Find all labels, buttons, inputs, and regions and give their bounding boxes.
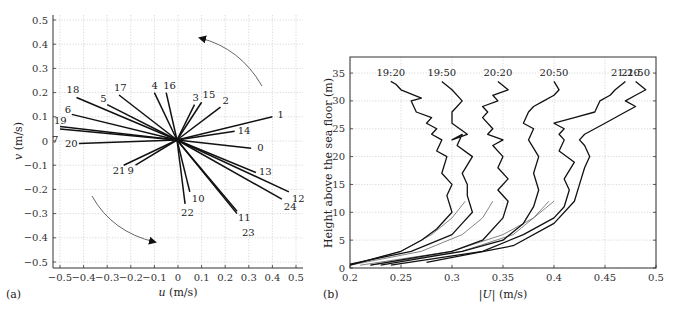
- x-tick-label: −0.4: [71, 272, 95, 283]
- vector-line: [124, 140, 177, 165]
- profile-time-label: 20:50: [540, 67, 569, 78]
- profile-time-label: 19:50: [427, 67, 456, 78]
- vector-label: 20: [65, 138, 78, 149]
- profile-line: [427, 81, 646, 262]
- vector-line: [136, 140, 177, 165]
- x-tick-label: −0.5: [48, 272, 72, 283]
- vector-label: 9: [128, 165, 134, 176]
- vector-label: 1: [277, 109, 283, 120]
- x-tick-label: −0.2: [119, 272, 143, 283]
- vector-label: 21: [113, 165, 126, 176]
- vector-label: 3: [193, 92, 199, 103]
- x-tick-label-b: 0.5: [648, 272, 664, 283]
- vector-label: 11: [238, 212, 251, 223]
- vector-line: [79, 140, 177, 143]
- x-axis-title: u (m/s): [159, 286, 198, 299]
- x-axis-title-b: |U| (m/s): [479, 288, 528, 302]
- profile-line: [381, 81, 559, 265]
- y-tick-label: 0.2: [32, 87, 48, 98]
- profile-time-label: 19:20: [376, 67, 405, 78]
- x-tick-label-b: 0.3: [444, 272, 460, 283]
- vector-label: 18: [67, 84, 80, 95]
- vector-label: 13: [259, 166, 272, 177]
- x-tick-label-b: 0.25: [390, 272, 412, 283]
- profile-line: [350, 81, 452, 265]
- vector-label: 7: [52, 134, 58, 145]
- panel-label-a: (a): [6, 288, 21, 301]
- x-tick-label: 0.5: [288, 272, 304, 283]
- vector-label: 14: [238, 125, 251, 136]
- vector-label: 17: [114, 82, 127, 93]
- x-tick-label: 0.3: [241, 272, 257, 283]
- profile-grid: [350, 57, 656, 268]
- y-tick-label: 0: [42, 136, 48, 147]
- vector-label: 10: [192, 193, 205, 204]
- profile-time-label: 20:20: [483, 67, 512, 78]
- x-tick-label: −0.1: [142, 272, 166, 283]
- vector-label: 6: [65, 104, 71, 115]
- y-tick-label-b: 5: [339, 235, 345, 246]
- y-axis-title-b: Height above the sea floor (m): [322, 78, 335, 248]
- y-axis-title: v (m/s): [12, 122, 25, 160]
- profile-time-label: 21:50: [621, 67, 650, 78]
- y-tick-label-b: 35: [332, 68, 345, 79]
- y-tick-label-b: 0: [339, 263, 345, 274]
- x-tick-label: −0.3: [95, 272, 119, 283]
- vector-label: 2: [222, 95, 228, 106]
- vector-label: 24: [284, 201, 297, 212]
- profile-line: [370, 81, 508, 265]
- x-tick-label: 0.4: [264, 272, 280, 283]
- cw-rotation-arrow-icon: [92, 196, 155, 242]
- vector-label: 15: [203, 89, 216, 100]
- y-tick-label: 0.4: [32, 39, 48, 50]
- vector-label: 23: [242, 227, 255, 238]
- x-tick-label-b: 0.35: [492, 272, 514, 283]
- x-tick-label: 0.2: [217, 272, 233, 283]
- vector-label: 16: [163, 80, 176, 91]
- panel-label-b: (b): [323, 288, 339, 301]
- x-tick-label-b: 0.45: [594, 272, 616, 283]
- vector-label: 0: [257, 142, 263, 153]
- fit-line: [350, 201, 465, 265]
- vector-label: 4: [151, 80, 157, 91]
- y-tick-label: −0.2: [24, 184, 48, 195]
- profile-line: [350, 81, 472, 264]
- ccw-rotation-arrow-icon: [200, 38, 262, 86]
- x-tick-label-b: 0.4: [546, 272, 562, 283]
- y-tick-label: −0.5: [24, 257, 48, 268]
- y-tick-label: 0.1: [32, 111, 48, 122]
- y-tick-label: 0.3: [32, 63, 48, 74]
- x-tick-label-b: 0.2: [342, 272, 358, 283]
- vector-label: 5: [100, 93, 106, 104]
- y-tick-label: −0.1: [24, 160, 48, 171]
- vector-label: 19: [54, 115, 67, 126]
- figure: −0.5−0.4−0.3−0.2−0.100.10.20.30.40.50.50…: [0, 0, 674, 310]
- vector-line: [154, 93, 177, 140]
- profile-ticks: 0.20.250.30.350.40.450.505101520253035: [332, 68, 664, 283]
- x-tick-label: 0: [175, 272, 181, 283]
- velocity-profile-panel: 0.20.250.30.350.40.450.505101520253035 1…: [322, 57, 664, 302]
- y-tick-label: −0.3: [24, 208, 48, 219]
- y-tick-label: 0.5: [32, 15, 48, 26]
- hodograph-panel: −0.5−0.4−0.3−0.2−0.100.10.20.30.40.50.50…: [6, 15, 305, 302]
- vector-label: 22: [181, 207, 194, 218]
- x-tick-label: 0.1: [194, 272, 210, 283]
- y-tick-label: −0.4: [24, 232, 48, 243]
